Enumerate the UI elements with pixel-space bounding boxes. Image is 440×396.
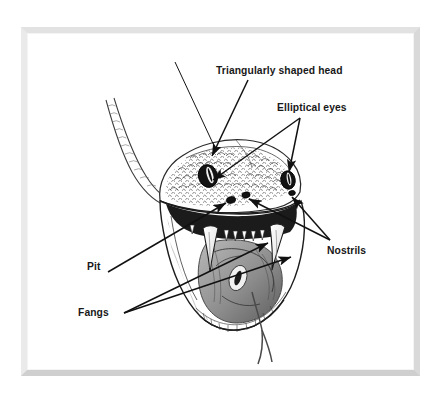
open-mouth <box>160 201 304 332</box>
decorative-guide-line <box>175 62 216 150</box>
label-triangularly-shaped-head: Triangularly shaped head <box>216 66 343 76</box>
label-fangs: Fangs <box>78 308 109 318</box>
label-elliptical-eyes: Elliptical eyes <box>277 103 347 113</box>
figure-root: Triangularly shaped head Elliptical eyes… <box>0 0 440 396</box>
label-nostrils: Nostrils <box>327 246 366 256</box>
arrow-elliptical-eyes-right <box>289 118 300 172</box>
label-pit: Pit <box>87 262 100 272</box>
snake-head-illustration <box>0 0 440 396</box>
snake-head <box>160 140 301 214</box>
